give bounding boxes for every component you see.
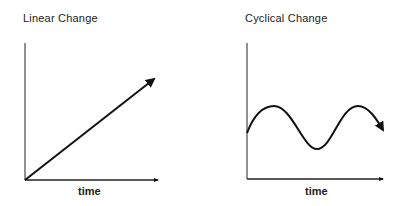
- cyclical-wave-line: [247, 106, 383, 149]
- cyclical-x-axis-label: time: [305, 185, 328, 197]
- linear-trend-line: [25, 79, 154, 180]
- diagram-canvas: [0, 0, 404, 206]
- linear-x-axis-label: time: [78, 185, 101, 197]
